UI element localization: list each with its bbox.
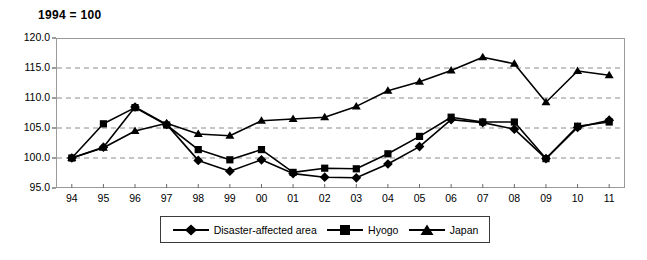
x-axis-tick-label: 02 <box>313 192 337 204</box>
legend-label: Disaster-affected area <box>214 224 317 236</box>
chart-title: 1994 = 100 <box>38 8 101 22</box>
y-axis-tick-label: 120.0 <box>4 31 50 43</box>
x-axis-tick-label: 11 <box>597 192 621 204</box>
x-axis-tick-label: 10 <box>566 192 590 204</box>
square-marker-icon <box>326 223 364 237</box>
x-axis-tick-label: 98 <box>186 192 210 204</box>
index-line-chart: 1994 = 100 120.0115.0110.0105.0100.095.0… <box>0 0 647 260</box>
y-axis-tick-label: 115.0 <box>4 61 50 73</box>
x-axis-tick-label: 05 <box>408 192 432 204</box>
legend-label: Hyogo <box>368 224 398 236</box>
plot-area <box>56 38 625 188</box>
chart-legend: Disaster-affected area Hyogo Japan <box>160 216 490 243</box>
legend-item-japan: Japan <box>408 223 479 237</box>
legend-item-hyogo: Hyogo <box>326 223 398 237</box>
y-axis-tick-label: 110.0 <box>4 91 50 103</box>
x-axis-tick-label: 96 <box>123 192 147 204</box>
x-axis-tick-label: 94 <box>60 192 84 204</box>
x-axis-tick-label: 07 <box>471 192 495 204</box>
x-axis-tick-label: 09 <box>534 192 558 204</box>
x-axis-tick-label: 99 <box>218 192 242 204</box>
legend-label: Japan <box>450 224 479 236</box>
x-axis-tick-label: 03 <box>344 192 368 204</box>
x-axis-tick-label: 00 <box>249 192 273 204</box>
x-axis-tick-label: 01 <box>281 192 305 204</box>
x-axis-tick-label: 97 <box>155 192 179 204</box>
triangle-marker-icon <box>408 223 446 237</box>
x-axis-tick-label: 08 <box>502 192 526 204</box>
x-axis-tick-label: 06 <box>439 192 463 204</box>
diamond-marker-icon <box>172 223 210 237</box>
x-axis-tick-label: 95 <box>91 192 115 204</box>
y-axis-tick-label: 105.0 <box>4 121 50 133</box>
y-axis-tick-label: 95.0 <box>4 181 50 193</box>
legend-item-disaster-affected-area: Disaster-affected area <box>172 223 317 237</box>
y-axis-tick-label: 100.0 <box>4 151 50 163</box>
x-axis-tick-label: 04 <box>376 192 400 204</box>
